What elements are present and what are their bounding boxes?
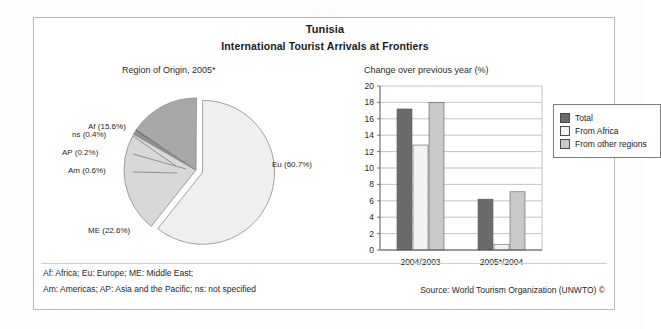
svg-text:2004/2003: 2004/2003: [400, 257, 440, 267]
pie-chart: Af (15.6%) ns (0.4%) AP (0.2%) Am (0.6%)…: [36, 80, 336, 260]
bar-chart-caption: Change over previous year (%): [364, 65, 489, 75]
chart-frame: Tunisia International Tourist Arrivals a…: [33, 17, 615, 310]
pie-label-me: ME (22.6%): [88, 226, 130, 235]
footnote-divider: [41, 263, 607, 264]
svg-text:8: 8: [369, 179, 374, 189]
svg-text:12: 12: [365, 147, 375, 157]
bar-y-axis-ticks: 02468101214161820: [365, 81, 375, 255]
pie-label-eu: Eu (60.7%): [272, 160, 312, 169]
bar-x-axis-categories: 2004/20032005*/2004: [400, 257, 523, 267]
svg-text:0: 0: [369, 245, 374, 255]
legend-item-from-other-regions: From other regions: [560, 139, 655, 149]
svg-text:18: 18: [365, 97, 375, 107]
bar-chart-legend: Total From Africa From other regions: [553, 104, 661, 158]
legend-item-from-africa: From Africa: [560, 126, 655, 136]
bar-series: [397, 102, 525, 250]
bar-chart: 02468101214161820 2004/20032005*/2004 To…: [356, 78, 618, 278]
legend-label-from-africa: From Africa: [575, 126, 618, 136]
svg-text:16: 16: [365, 114, 375, 124]
svg-text:6: 6: [369, 196, 374, 206]
svg-text:10: 10: [365, 163, 375, 173]
legend-swatch-total: [560, 113, 570, 123]
footnote-line-2: Am: Americas; AP: Asia and the Pacific; …: [43, 284, 256, 294]
pie-label-ap: AP (0.2%): [62, 148, 98, 157]
svg-text:14: 14: [365, 130, 375, 140]
svg-text:20: 20: [365, 81, 375, 91]
pie-label-am: Am (0.6%): [68, 166, 106, 175]
legend-label-from-other-regions: From other regions: [575, 139, 647, 149]
legend-swatch-from-other-regions: [560, 139, 570, 149]
svg-text:2: 2: [369, 229, 374, 239]
page-title: Tunisia: [34, 23, 616, 35]
pie-chart-caption: Region of Origin, 2005*: [122, 65, 216, 75]
legend-item-total: Total: [560, 113, 655, 123]
source-note: Source: World Tourism Organization (UNWT…: [420, 285, 605, 295]
footnote-line-1: Af: Africa; Eu: Europe; ME: Middle East;: [43, 268, 193, 278]
page-subtitle: International Tourist Arrivals at Fronti…: [34, 40, 616, 52]
pie-slices: [124, 98, 275, 244]
svg-text:2005*/2004: 2005*/2004: [480, 257, 524, 267]
pie-label-ns: ns (0.4%): [72, 130, 106, 139]
legend-label-total: Total: [575, 113, 593, 123]
legend-swatch-from-africa: [560, 126, 570, 136]
svg-text:4: 4: [369, 212, 374, 222]
